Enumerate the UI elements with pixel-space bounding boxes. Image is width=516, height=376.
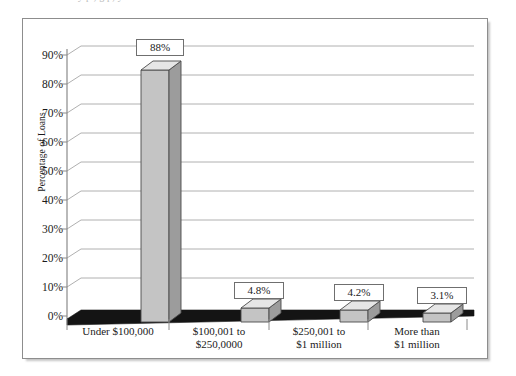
data-label-under-100000: 88% bbox=[136, 39, 184, 56]
bar-under-100000[interactable] bbox=[141, 61, 181, 322]
x-category-label-2: $250,001 to $1 million bbox=[269, 325, 369, 350]
gridlines bbox=[67, 46, 474, 287]
gridline-50 bbox=[67, 162, 474, 171]
bar-250001-to-1-million[interactable] bbox=[340, 301, 380, 322]
bar-more-than-1-million[interactable] bbox=[423, 304, 463, 322]
x-category-label-3: More than $1 million bbox=[367, 325, 467, 350]
x-category-label-1: $100,001 to $250,0000 bbox=[169, 325, 269, 350]
y-axis-ticks bbox=[62, 55, 67, 316]
gridline-90 bbox=[67, 46, 474, 55]
gridline-80 bbox=[67, 75, 474, 84]
data-label-100001-to-250000: 4.8% bbox=[234, 282, 284, 299]
chart-canvas bbox=[23, 19, 487, 358]
clipped-caption-strip: y p , g p, y bbox=[0, 0, 516, 13]
data-label-more-than-1-million: 3.1% bbox=[417, 287, 467, 304]
gridline-70 bbox=[67, 104, 474, 113]
figure-frame: Percentage of Loans 90% 80% 70% 60% 50% … bbox=[22, 18, 488, 359]
gridline-40 bbox=[67, 191, 474, 200]
gridline-60 bbox=[67, 133, 474, 142]
gridline-30 bbox=[67, 220, 474, 229]
gridline-20 bbox=[67, 249, 474, 258]
data-label-250001-to-1-million: 4.2% bbox=[334, 284, 384, 301]
chart-plot-area: Percentage of Loans 90% 80% 70% 60% 50% … bbox=[23, 19, 487, 358]
x-category-label-0: Under $100,000 bbox=[68, 325, 168, 338]
clipped-caption-text: y p , g p, y bbox=[78, 0, 123, 2]
